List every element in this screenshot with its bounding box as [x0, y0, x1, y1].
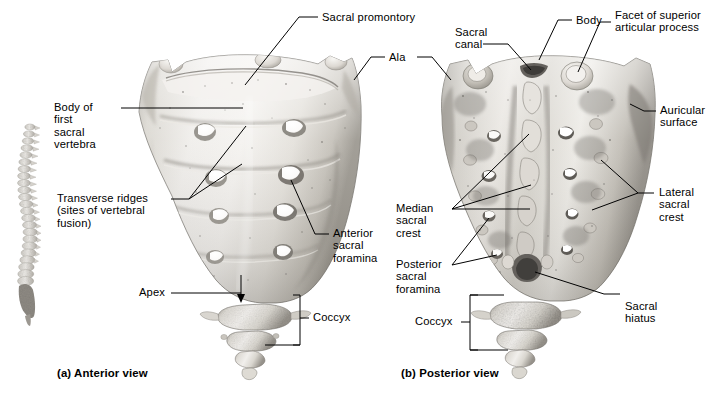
label-posterior-sacral-foramina: Posterior sacral foramina — [396, 258, 442, 295]
coccyx-anterior-illustration — [200, 304, 311, 380]
label-sacral-hiatus: Sacral hiatus — [625, 300, 657, 325]
vertebral-column-inset — [18, 124, 42, 326]
superior-articular-process-left — [463, 63, 493, 89]
label-ala: Ala — [389, 51, 406, 63]
label-transverse-ridges: Transverse ridges (sites of vertebral fu… — [57, 192, 148, 229]
label-apex: Apex — [139, 286, 165, 298]
sacrum-anterior-illustration — [130, 50, 370, 380]
label-coccyx-anterior: Coccyx — [313, 311, 350, 323]
label-lateral-sacral-crest: Lateral sacral crest — [659, 186, 694, 223]
bracket-coccyx-anterior — [293, 295, 309, 345]
caption-anterior-view: (a) Anterior view — [57, 367, 148, 379]
label-auricular-surface: Auricular surface — [660, 104, 705, 129]
label-facet-of-superior-articular-process: Facet of superior articular process — [615, 9, 701, 34]
label-body-of-first-sacral-vertebra: Body of first sacral vertebra — [54, 101, 118, 151]
caption-posterior-view: (b) Posterior view — [401, 367, 499, 379]
label-coccyx-posterior: Coccyx — [415, 315, 452, 327]
sacrum-posterior-illustration — [432, 50, 672, 379]
label-anterior-sacral-foramina: Anterior sacral foramina — [333, 227, 377, 264]
leader-ala-anterior — [354, 57, 385, 80]
label-sacral-promontory: Sacral promontory — [322, 11, 415, 23]
superior-articular-process-right — [561, 62, 593, 90]
bracket-coccyx-posterior — [461, 295, 478, 350]
label-sacral-canal: Sacral canal — [455, 26, 487, 51]
label-body: Body — [576, 14, 602, 26]
anatomy-figure-sacrum-coccyx: Sacral promontory Ala Sacral canal Body … — [0, 0, 710, 404]
leader-body — [539, 20, 572, 60]
label-median-sacral-crest: Median sacral crest — [396, 202, 433, 239]
